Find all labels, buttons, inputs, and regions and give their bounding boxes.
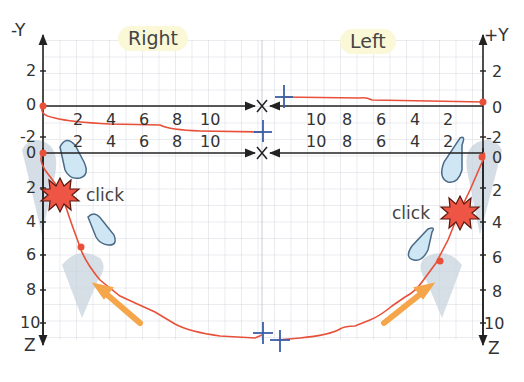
- panel-title-right: Right: [118, 26, 188, 51]
- tick-x-right: 8: [342, 134, 352, 150]
- tick-x-right: 10: [306, 134, 326, 150]
- tick-x-right: 6: [376, 134, 386, 150]
- panel-title-left: Left: [340, 29, 396, 54]
- tick-y-left: 2: [26, 63, 36, 79]
- tick-x-right: 8: [342, 112, 352, 128]
- tick-z-right: 2: [492, 183, 502, 199]
- axis-label-neg-y: -Y: [11, 22, 26, 39]
- tick-z-left: 4: [26, 214, 36, 230]
- tick-z-right: 10: [484, 316, 504, 332]
- tick-y-right: -2: [486, 130, 502, 146]
- axis-label-pos-y: +Y: [484, 27, 509, 44]
- tick-x-left: 2: [73, 134, 83, 150]
- tick-x-right: 2: [443, 112, 453, 128]
- tick-x-left: 4: [106, 112, 116, 128]
- tick-x-right: 2: [443, 134, 453, 150]
- tick-x-left: 6: [139, 112, 149, 128]
- click-annotation-right: click: [392, 203, 430, 223]
- tick-x-left: 6: [139, 134, 149, 150]
- tick-y-left: 0: [26, 97, 36, 113]
- tick-z-right: 8: [492, 284, 502, 300]
- tick-x-left: 8: [172, 112, 182, 128]
- diagram-canvas: [0, 0, 524, 382]
- axis-label-z-right: Z: [488, 340, 500, 357]
- tick-y-right: 2: [492, 64, 502, 80]
- xyz-trajectory-diagram: Right Left -Y +Y X Z Z 2 0 -2 2 0 -2 0 2…: [0, 0, 524, 382]
- tick-x-right: 10: [306, 112, 326, 128]
- tick-z-left: 8: [26, 282, 36, 298]
- tick-z-right: 4: [492, 215, 502, 231]
- tick-x-left: 4: [106, 134, 116, 150]
- tick-z-left: 0: [26, 145, 36, 161]
- tick-z-left: 2: [26, 180, 36, 196]
- tick-x-right: 4: [410, 112, 420, 128]
- tick-x-right: 6: [376, 112, 386, 128]
- tick-z-left: 6: [26, 247, 36, 263]
- tick-z-right: 6: [492, 250, 502, 266]
- tick-x-right: 4: [410, 134, 420, 150]
- tick-z-right: 0: [492, 150, 502, 166]
- tick-x-left: 8: [172, 134, 182, 150]
- tick-x-left: 10: [200, 134, 220, 150]
- tick-x-left: 2: [73, 112, 83, 128]
- tick-y-right: 0: [492, 100, 502, 116]
- click-annotation-left: click: [86, 185, 124, 205]
- tick-x-left: 10: [200, 112, 220, 128]
- axis-label-z-left: Z: [24, 337, 36, 354]
- tick-z-left: 10: [20, 315, 40, 331]
